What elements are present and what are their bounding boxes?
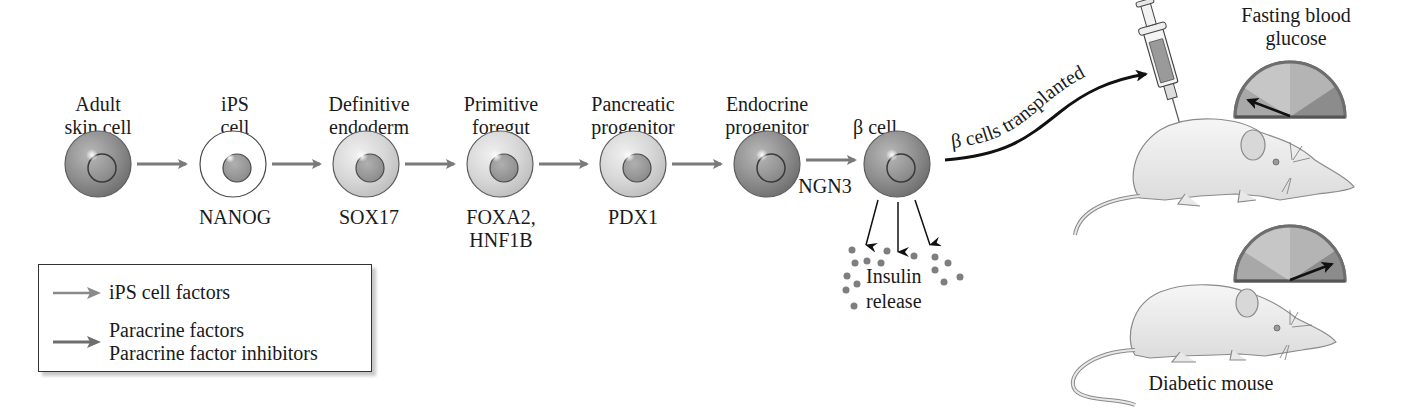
insulin-arrow-right: [915, 200, 930, 245]
legend: iPS cell factors Paracrine factors Parac…: [38, 264, 372, 372]
mouse-transplanted-icon: [1075, 119, 1354, 235]
cell-primitive-foregut: [467, 131, 533, 197]
gauge-title-line: glucose: [1236, 27, 1356, 50]
syringe-icon: [1131, 0, 1197, 141]
legend-label: iPS cell factors: [109, 281, 230, 304]
glucose-gauge-treated: [1235, 62, 1345, 117]
cell-adult-skin: [65, 131, 131, 197]
insulin-line: Insulin: [866, 264, 922, 289]
cell-beta: [864, 131, 930, 197]
insulin-line: release: [866, 289, 922, 314]
gauge-title: Fasting blood glucose: [1236, 4, 1356, 50]
legend-item-ips-factors: iPS cell factors: [51, 281, 230, 304]
cell-definitive-endoderm: [333, 131, 399, 197]
diabetic-mouse-caption: Diabetic mouse: [1136, 372, 1286, 395]
legend-line: Paracrine factor inhibitors: [109, 342, 318, 365]
legend-item-paracrine: Paracrine factors Paracrine factor inhib…: [51, 319, 318, 365]
gray-arrow-icon: [51, 335, 101, 349]
insulin-arrow-left: [866, 200, 878, 245]
cell-ips: [200, 131, 266, 197]
legend-label: Paracrine factors Paracrine factor inhib…: [109, 319, 318, 365]
legend-line: Paracrine factors: [109, 319, 318, 342]
light-gray-arrow-icon: [51, 286, 101, 300]
glucose-gauge-diabetic: [1235, 226, 1345, 281]
cell-endocrine-progenitor: [734, 131, 800, 197]
insulin-release-label: Insulin release: [866, 264, 922, 314]
cell-pancreatic-progenitor: [600, 131, 666, 197]
gauge-title-line: Fasting blood: [1236, 4, 1356, 27]
